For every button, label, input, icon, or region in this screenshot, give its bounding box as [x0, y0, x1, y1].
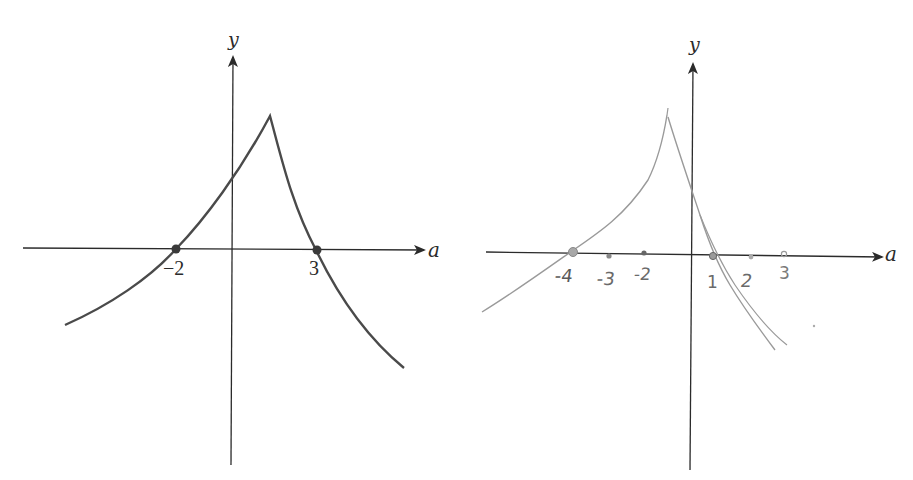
left-tick-label-neg2: −2 — [163, 257, 184, 280]
right-a-axis — [486, 252, 882, 257]
left-a-axis-label: a — [428, 238, 440, 262]
right-y-axis-label: y — [689, 33, 700, 55]
figure: y a −2 3 y a -4 -3 -2 1 2 3 — [0, 0, 913, 480]
left-tick-label-3: 3 — [309, 257, 319, 280]
right-a-axis-label: a — [885, 242, 897, 266]
right-dot-2 — [749, 255, 754, 260]
right-curve-right-branch-a — [668, 117, 775, 350]
right-dot-neg3 — [606, 253, 611, 258]
stray-speck — [813, 325, 815, 327]
right-curve-peak-tip — [667, 108, 668, 115]
right-graph — [0, 0, 913, 480]
right-dot-neg2 — [641, 250, 646, 255]
right-dot-neg4 — [569, 248, 578, 257]
right-tick-label-neg2: -2 — [633, 264, 653, 284]
right-dot-1 — [709, 252, 716, 259]
right-tick-label-3: 3 — [779, 263, 790, 283]
right-tick-label-neg4: -4 — [554, 265, 575, 286]
right-y-axis — [690, 64, 693, 470]
right-tick-label-neg3: -3 — [596, 268, 617, 289]
right-tick-label-1: 1 — [707, 272, 718, 292]
left-y-axis-label: y — [228, 28, 239, 50]
